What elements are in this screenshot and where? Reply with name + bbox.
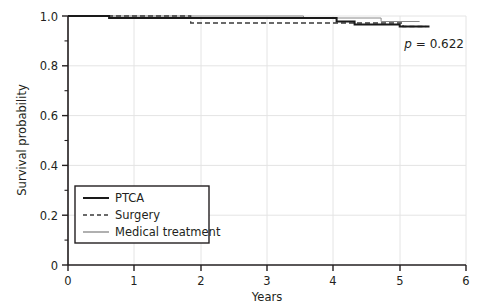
- p-value-annotation: p = 0.622: [403, 37, 464, 51]
- xtick-label-4: 4: [329, 274, 336, 288]
- xtick-label-3: 3: [263, 274, 270, 288]
- legend-label-ptca: PTCA: [115, 191, 144, 205]
- xtick-label-6: 6: [462, 274, 469, 288]
- xtick-label-2: 2: [197, 274, 204, 288]
- legend-label-medical-treatment: Medical treatment: [115, 225, 221, 239]
- ytick-label-0_2: 0.2: [40, 209, 58, 223]
- xtick-label-5: 5: [396, 274, 403, 288]
- ytick-label-0_6: 0.6: [40, 109, 58, 123]
- xtick-label-1: 1: [130, 274, 137, 288]
- legend: PTCA Surgery Medical treatment: [75, 186, 221, 243]
- ytick-label-0_8: 0.8: [40, 59, 58, 73]
- y-axis-title: Survival probability: [15, 84, 29, 196]
- ytick-label-1_0: 1.0: [40, 10, 58, 24]
- ytick-label-0: 0: [51, 259, 58, 273]
- xtick-label-0: 0: [64, 274, 71, 288]
- survival-plot-svg: 1.0 0.8 0.6 0.4 0.2 0 0 1 2 3 4 5 6 Year…: [0, 0, 487, 305]
- legend-label-surgery: Surgery: [115, 208, 160, 222]
- p-value-number: = 0.622: [412, 37, 464, 51]
- survival-plot-figure: 1.0 0.8 0.6 0.4 0.2 0 0 1 2 3 4 5 6 Year…: [0, 0, 487, 305]
- x-axis-title: Years: [251, 290, 282, 304]
- ytick-label-0_4: 0.4: [40, 159, 58, 173]
